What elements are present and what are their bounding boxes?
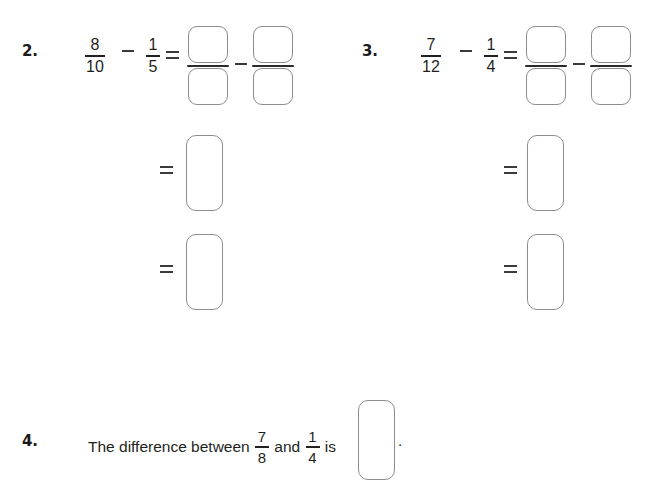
numerator: 1	[307, 429, 317, 444]
q2-work-row1-box[interactable]	[186, 135, 223, 211]
q2-answer1-numerator-box[interactable]	[188, 26, 228, 63]
equals-icon	[504, 166, 517, 175]
equals-icon	[504, 51, 517, 60]
q2-work-row2-box[interactable]	[186, 234, 223, 310]
q2-answer2-numerator-box[interactable]	[253, 26, 293, 63]
q3-answer1-denominator-box[interactable]	[526, 68, 566, 105]
question-2-number: 2.	[22, 42, 38, 60]
q3-answer-minus-operator	[573, 63, 585, 65]
numerator: 1	[148, 37, 159, 53]
q2-equals-operator-row1	[166, 51, 179, 60]
q3-work-row1-box[interactable]	[527, 135, 564, 211]
minus-icon	[122, 50, 134, 52]
denominator: 12	[421, 59, 441, 75]
statement-conjunction-text: and	[274, 438, 300, 455]
fraction-1-over-4: 1 4	[484, 37, 498, 75]
equals-icon	[160, 265, 173, 274]
q2-answer-minus-operator	[235, 63, 247, 65]
numerator: 7	[425, 37, 436, 53]
equals-icon	[504, 265, 517, 274]
fraction-7-over-8: 7 8	[255, 429, 269, 465]
numerator: 7	[257, 429, 267, 444]
statement-verb-text: is	[325, 438, 336, 455]
fraction-8-over-10: 8 10	[85, 37, 105, 75]
q3-answer1-fraction-bar	[525, 65, 567, 67]
q3-equals-operator-row1	[504, 51, 517, 60]
fraction-bar	[255, 446, 269, 448]
q3-answer2-fraction-bar	[590, 65, 632, 67]
fraction-bar	[146, 55, 160, 57]
fraction-bar	[484, 55, 498, 57]
q3-answer2-denominator-box[interactable]	[591, 68, 631, 105]
q2-left-fraction: 8 10	[84, 38, 106, 76]
fraction-1-over-5: 1 5	[146, 37, 160, 75]
q3-left-fraction: 7 12	[420, 38, 442, 76]
minus-icon	[235, 63, 247, 65]
q3-answer1-numerator-box[interactable]	[526, 26, 566, 63]
numerator: 8	[89, 37, 100, 53]
q2-answer1-denominator-box[interactable]	[188, 68, 228, 105]
denominator: 4	[307, 450, 317, 465]
fraction-bar	[306, 446, 320, 448]
q3-answer2-numerator-box[interactable]	[591, 26, 631, 63]
fraction-1-over-4: 1 4	[306, 429, 320, 465]
question-3-number: 3.	[362, 42, 378, 60]
question-4-statement: The difference between 7 8 and 1 4 is	[88, 430, 336, 466]
q2-answer2-denominator-box[interactable]	[253, 68, 293, 105]
minus-icon	[460, 50, 472, 52]
denominator: 8	[257, 450, 267, 465]
q2-answer2-fraction-bar	[252, 65, 294, 67]
fraction-7-over-12: 7 12	[421, 37, 441, 75]
numerator: 1	[486, 37, 497, 53]
q2-equals-operator-row3	[160, 265, 173, 274]
denominator: 10	[85, 59, 105, 75]
q3-right-fraction: 1 4	[483, 38, 499, 76]
q3-equals-operator-row2	[504, 166, 517, 175]
denominator: 4	[486, 59, 497, 75]
q2-right-fraction: 1 5	[145, 38, 161, 76]
statement-period: .	[398, 432, 402, 450]
denominator: 5	[148, 59, 159, 75]
q3-work-row2-box[interactable]	[527, 234, 564, 310]
equals-icon	[160, 166, 173, 175]
fraction-bar	[85, 55, 105, 57]
q2-minus-operator	[122, 50, 134, 52]
equals-icon	[166, 51, 179, 60]
fraction-bar	[421, 55, 441, 57]
q2-equals-operator-row2	[160, 166, 173, 175]
statement-lead-text: The difference between	[88, 438, 250, 455]
q3-equals-operator-row3	[504, 265, 517, 274]
q4-answer-box[interactable]	[358, 400, 395, 480]
question-4-number: 4.	[22, 432, 38, 450]
q3-minus-operator	[460, 50, 472, 52]
minus-icon	[573, 63, 585, 65]
q2-answer1-fraction-bar	[187, 65, 229, 67]
